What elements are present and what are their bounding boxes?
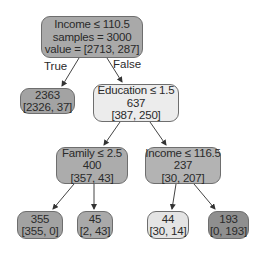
node-leaf-2363-samples: 2363 bbox=[35, 89, 60, 102]
edge-income-to-leaf-193 bbox=[194, 184, 215, 209]
node-family-samples: 400 bbox=[83, 159, 102, 172]
node-leaf-2363[interactable]: 2363 [2326, 37] bbox=[20, 88, 75, 114]
node-income-116-value: [30, 207] bbox=[162, 172, 205, 185]
node-root-condition: Income ≤ 110.5 bbox=[54, 18, 130, 31]
node-leaf-193-samples: 193 bbox=[219, 213, 238, 226]
node-root-income-split[interactable]: Income ≤ 110.5 samples = 3000 value = [2… bbox=[41, 16, 143, 58]
node-family-condition: Family ≤ 2.5 bbox=[62, 147, 122, 160]
edge-education-to-family bbox=[104, 122, 120, 145]
edge-label-false: False bbox=[113, 58, 141, 70]
node-leaf-45-samples: 45 bbox=[89, 213, 101, 226]
edge-income-to-leaf-44 bbox=[172, 184, 176, 209]
node-family-split[interactable]: Family ≤ 2.5 400 [357, 43] bbox=[56, 147, 128, 184]
node-leaf-355-samples: 355 bbox=[31, 213, 50, 226]
node-education-condition: Education ≤ 1.5 bbox=[98, 84, 175, 97]
node-education-split[interactable]: Education ≤ 1.5 637 [387, 250] bbox=[93, 84, 179, 122]
node-leaf-45-value: [2, 43] bbox=[80, 225, 111, 238]
node-leaf-355[interactable]: 355 [355, 0] bbox=[17, 211, 63, 239]
node-leaf-44-samples: 44 bbox=[162, 213, 174, 226]
node-leaf-193-value: [0, 193] bbox=[210, 225, 247, 238]
node-income-116-condition: Income ≤ 116.5 bbox=[145, 147, 221, 160]
node-leaf-44[interactable]: 44 [30, 14] bbox=[147, 211, 189, 239]
node-leaf-45[interactable]: 45 [2, 43] bbox=[77, 211, 113, 239]
node-income-116-split[interactable]: Income ≤ 116.5 237 [30, 207] bbox=[145, 147, 221, 184]
edge-education-to-income bbox=[150, 122, 166, 145]
node-family-value: [357, 43] bbox=[71, 172, 114, 185]
node-leaf-193[interactable]: 193 [0, 193] bbox=[208, 211, 249, 239]
node-leaf-44-value: [30, 14] bbox=[150, 225, 187, 238]
node-root-value: value = [2713, 287] bbox=[45, 43, 139, 56]
node-leaf-355-value: [355, 0] bbox=[22, 225, 59, 238]
edge-label-true: True bbox=[44, 60, 67, 72]
edge-family-to-leaf-355 bbox=[53, 184, 74, 209]
node-education-value: [387, 250] bbox=[111, 109, 160, 122]
node-leaf-2363-value: [2326, 37] bbox=[23, 101, 72, 114]
node-education-samples: 637 bbox=[127, 97, 146, 110]
node-root-samples: samples = 3000 bbox=[53, 31, 132, 44]
node-income-116-samples: 237 bbox=[174, 159, 193, 172]
